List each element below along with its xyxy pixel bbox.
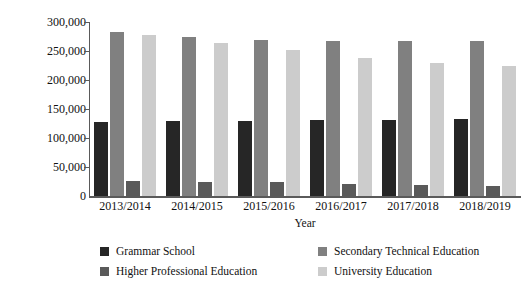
x-axis-tick-label: 2016/2017 xyxy=(305,199,377,213)
bar[interactable] xyxy=(358,58,372,196)
bar[interactable] xyxy=(470,41,484,196)
y-axis-tick-label: 150,000 xyxy=(20,103,86,115)
bar[interactable] xyxy=(270,182,284,196)
bar[interactable] xyxy=(166,121,180,196)
plot-area xyxy=(89,22,521,196)
x-axis-line xyxy=(89,196,521,198)
legend-label: Secondary Technical Education xyxy=(334,245,479,257)
bar[interactable] xyxy=(382,120,396,196)
legend-label: University Education xyxy=(334,265,432,277)
chart-legend: Grammar SchoolSecondary Technical Educat… xyxy=(100,243,520,285)
bar-group xyxy=(305,22,377,196)
x-axis-tick-label: 2015/2016 xyxy=(233,199,305,213)
bar[interactable] xyxy=(326,41,340,196)
bar-group xyxy=(449,22,521,196)
bar[interactable] xyxy=(454,119,468,196)
y-axis-tick-label: 250,000 xyxy=(20,45,86,57)
bar[interactable] xyxy=(310,120,324,196)
bars-layer xyxy=(89,22,521,196)
legend-swatch-icon xyxy=(100,247,109,256)
legend-label: Grammar School xyxy=(116,245,195,257)
bar[interactable] xyxy=(182,37,196,196)
bar[interactable] xyxy=(198,182,212,196)
bar[interactable] xyxy=(214,43,228,196)
x-axis-tick-label: 2014/2015 xyxy=(161,199,233,213)
legend-swatch-icon xyxy=(318,267,327,276)
x-axis-tick-label: 2017/2018 xyxy=(377,199,449,213)
y-axis-tick-label: 100,000 xyxy=(20,132,86,144)
legend-item[interactable]: Higher Professional Education xyxy=(100,263,257,279)
x-axis-tick-labels: 2013/20142014/20152015/20162016/20172017… xyxy=(89,199,521,215)
bar[interactable] xyxy=(486,186,500,196)
y-axis-tick-label: 0 xyxy=(20,190,86,202)
bar[interactable] xyxy=(238,121,252,196)
bar[interactable] xyxy=(94,122,108,196)
bar-group xyxy=(161,22,233,196)
bar[interactable] xyxy=(430,63,444,196)
bar[interactable] xyxy=(142,35,156,196)
y-axis-tick-label: 50,000 xyxy=(20,161,86,173)
legend-swatch-icon xyxy=(100,267,109,276)
bar[interactable] xyxy=(126,181,140,196)
bar-group xyxy=(233,22,305,196)
y-axis-tick-labels: 050,000100,000150,000200,000250,000300,0… xyxy=(20,0,86,292)
x-axis-title: Year xyxy=(89,217,521,229)
bar-group xyxy=(377,22,449,196)
bar[interactable] xyxy=(414,185,428,196)
bar[interactable] xyxy=(398,41,412,196)
legend-item[interactable]: Grammar School xyxy=(100,243,195,259)
bar[interactable] xyxy=(254,40,268,196)
bar-chart: People educated 050,000100,000150,000200… xyxy=(0,0,528,292)
x-axis-tick-label: 2013/2014 xyxy=(89,199,161,213)
legend-label: Higher Professional Education xyxy=(116,265,257,277)
legend-item[interactable]: Secondary Technical Education xyxy=(318,243,479,259)
legend-swatch-icon xyxy=(318,247,327,256)
bar[interactable] xyxy=(342,184,356,196)
bar[interactable] xyxy=(286,50,300,196)
legend-item[interactable]: University Education xyxy=(318,263,432,279)
bar-group xyxy=(89,22,161,196)
bar[interactable] xyxy=(110,32,124,196)
bar[interactable] xyxy=(502,66,516,197)
y-axis-tick-label: 300,000 xyxy=(20,16,86,28)
y-axis-tick-label: 200,000 xyxy=(20,74,86,86)
x-axis-tick-label: 2018/2019 xyxy=(449,199,521,213)
